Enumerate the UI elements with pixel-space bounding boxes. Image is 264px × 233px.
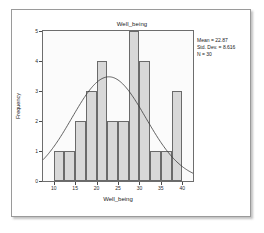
- x-tick-mark: [75, 182, 76, 185]
- y-axis-title: Frequency: [15, 93, 21, 119]
- x-tick-label: 20: [94, 185, 100, 191]
- x-tick-mark: [139, 182, 140, 185]
- plot-area: [42, 30, 194, 182]
- x-tick-mark: [161, 182, 162, 185]
- x-tick-label: 30: [137, 185, 143, 191]
- chart-document-frame: Well_being Frequency 012345 101520253035…: [11, 9, 251, 217]
- x-tick-label: 15: [72, 185, 78, 191]
- stat-std-dev: Std. Dev. = 8.616: [197, 44, 235, 51]
- stat-n: N = 30: [197, 51, 235, 58]
- chart-title: Well_being: [12, 21, 252, 27]
- x-axis-title: Well_being: [42, 196, 194, 202]
- plot-inner: [43, 31, 193, 181]
- y-tick-label: 2: [22, 118, 38, 124]
- x-tick-label: 35: [158, 185, 164, 191]
- x-tick-label: 40: [180, 185, 186, 191]
- histogram-chart: Well_being Frequency 012345 101520253035…: [12, 10, 252, 218]
- y-tick-label: 5: [22, 28, 38, 34]
- y-tick-label: 3: [22, 88, 38, 94]
- x-tick-mark: [54, 182, 55, 185]
- x-tick-label: 25: [115, 185, 121, 191]
- normal-distribution-curve: [43, 31, 193, 181]
- x-tick-mark: [97, 182, 98, 185]
- x-tick-mark: [118, 182, 119, 185]
- y-tick-label: 4: [22, 58, 38, 64]
- statistics-annotation: Mean = 22.87 Std. Dev. = 8.616 N = 30: [197, 37, 235, 58]
- y-tick-label: 1: [22, 148, 38, 154]
- screenshot-root: Well_being Frequency 012345 101520253035…: [0, 0, 264, 233]
- stat-mean: Mean = 22.87: [197, 37, 235, 44]
- y-tick-label: 0: [22, 178, 38, 184]
- x-tick-mark: [182, 182, 183, 185]
- x-tick-label: 10: [51, 185, 57, 191]
